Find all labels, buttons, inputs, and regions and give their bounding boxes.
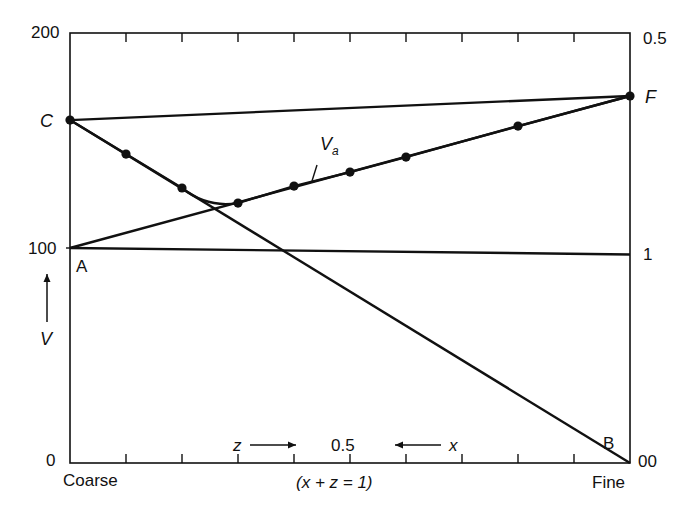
a-horizontal-line <box>70 248 630 254</box>
x-arrow-head <box>395 442 403 449</box>
x-axis-label: (x + z = 1) <box>296 474 373 491</box>
x-right-label: Fine <box>592 474 625 491</box>
data-point <box>177 183 186 192</box>
data-point <box>65 115 74 124</box>
chart-lines <box>70 96 630 463</box>
va-curve <box>70 96 630 204</box>
z-arrow-head <box>288 442 296 449</box>
cf-line <box>70 96 630 120</box>
x-left-label: Coarse <box>63 472 118 489</box>
data-point <box>121 149 130 158</box>
right-axis-tick-0-5: 0.5 <box>643 30 667 47</box>
y-axis-label: V <box>40 330 52 348</box>
data-point <box>289 181 298 190</box>
point-label-f: F <box>645 88 656 106</box>
data-point <box>401 152 410 161</box>
x-arrow-label: x <box>449 437 458 454</box>
right-axis-tick-00: 00 <box>638 453 657 470</box>
v-up-arrow-head <box>44 274 51 282</box>
data-point <box>233 198 242 207</box>
left-axis-tick-200: 200 <box>31 24 59 41</box>
point-label-a: A <box>76 258 87 275</box>
va-label-sub: a <box>332 144 339 158</box>
mid-value-label: 0.5 <box>331 437 355 454</box>
va-leader-line <box>312 165 317 181</box>
point-label-c: C <box>40 112 53 130</box>
data-point <box>625 91 634 100</box>
z-arrow-label: z <box>233 437 242 454</box>
annotation-arrows <box>44 274 442 449</box>
data-point <box>345 168 354 177</box>
point-label-b: B <box>603 435 614 452</box>
left-axis-tick-0: 0 <box>46 452 55 469</box>
va-label: Va <box>320 135 339 157</box>
right-axis-tick-1: 1 <box>643 246 652 263</box>
data-point <box>513 121 522 130</box>
left-axis-tick-100: 100 <box>28 240 56 257</box>
va-label-main: V <box>320 134 332 154</box>
